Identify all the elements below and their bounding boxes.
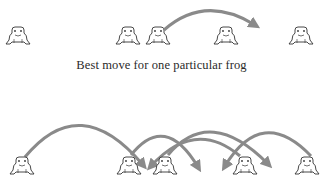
frog-icon: [6, 27, 30, 44]
jump-arrow: [164, 11, 255, 30]
frog-icon: [214, 27, 238, 44]
frog-icon: [116, 27, 140, 44]
frog-icon: [295, 157, 319, 174]
caption: Best move for one particular frog: [0, 58, 323, 73]
frog-icon: [10, 157, 34, 174]
frog-icon: [289, 27, 313, 44]
frog-icon: [233, 157, 257, 174]
jump-arrow: [225, 133, 311, 166]
bottom-row-frogs: [10, 157, 319, 174]
top-row-frogs: [6, 27, 313, 44]
top-row-arrows: [164, 11, 255, 30]
frog-jump-diagram: [0, 0, 323, 185]
